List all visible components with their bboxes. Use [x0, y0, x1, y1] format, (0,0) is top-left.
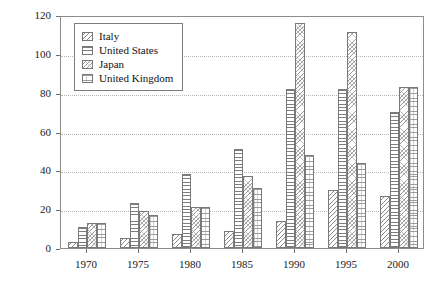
bar — [295, 23, 305, 248]
legend-item-italy: Italy — [82, 29, 173, 43]
x-tick-label: 1995 — [316, 258, 376, 270]
x-tick-label: 2000 — [368, 258, 428, 270]
legend-label-italy: Italy — [99, 30, 119, 43]
x-tick-mark — [294, 249, 295, 253]
chart-legend: Italy United States Japan United Kingdom — [74, 23, 183, 91]
y-tick-label: 80 — [0, 87, 51, 99]
x-tick-label: 1970 — [56, 258, 116, 270]
legend-label-united-states: United States — [99, 44, 158, 57]
x-tick-mark — [242, 249, 243, 253]
bar — [191, 207, 201, 248]
y-tick-label: 100 — [0, 48, 51, 60]
bar — [328, 190, 338, 248]
bar — [182, 174, 192, 248]
x-tick-label: 1990 — [264, 258, 324, 270]
bar — [149, 215, 159, 248]
bar — [224, 231, 234, 248]
y-tick-label: 40 — [0, 164, 51, 176]
legend-swatch-united-kingdom — [82, 74, 93, 83]
x-tick-label: 1975 — [108, 258, 168, 270]
bar — [305, 155, 315, 248]
x-tick-label: 1980 — [160, 258, 220, 270]
bar — [97, 223, 107, 248]
legend-item-japan: Japan — [82, 57, 173, 71]
legend-item-united-kingdom: United Kingdom — [82, 71, 173, 85]
y-tick-label: 60 — [0, 126, 51, 138]
bar — [120, 238, 130, 248]
bar — [276, 221, 286, 248]
bar — [380, 196, 390, 248]
x-tick-label: 1985 — [212, 258, 272, 270]
y-tick-mark — [56, 249, 60, 250]
legend-swatch-japan — [82, 60, 93, 69]
x-tick-mark — [138, 249, 139, 253]
bar — [130, 203, 140, 248]
bar — [243, 176, 253, 248]
legend-label-united-kingdom: United Kingdom — [99, 72, 173, 85]
bar — [139, 211, 149, 248]
gridline — [61, 95, 423, 96]
legend-swatch-united-states — [82, 46, 93, 55]
bar — [234, 149, 244, 248]
x-tick-mark — [190, 249, 191, 253]
legend-swatch-italy — [82, 32, 93, 41]
bar — [78, 227, 88, 248]
legend-item-united-states: United States — [82, 43, 173, 57]
plot-area: Italy United States Japan United Kingdom — [60, 16, 424, 249]
x-tick-mark — [86, 249, 87, 253]
bar — [253, 188, 263, 248]
y-tick-label: 120 — [0, 9, 51, 21]
bar — [87, 223, 97, 248]
bar — [390, 112, 400, 248]
x-tick-mark — [398, 249, 399, 253]
bar — [399, 87, 409, 248]
legend-label-japan: Japan — [99, 58, 124, 71]
bar — [286, 89, 296, 248]
bar — [68, 242, 78, 248]
x-tick-mark — [346, 249, 347, 253]
y-tick-label: 20 — [0, 203, 51, 215]
bar — [409, 87, 419, 248]
bar — [172, 234, 182, 248]
bar — [357, 163, 367, 248]
bar — [347, 32, 357, 248]
bar — [338, 89, 348, 248]
y-tick-label: 0 — [0, 242, 51, 254]
bar-chart-figure: 020406080100120 Italy United States Japa… — [0, 0, 443, 284]
gridline — [61, 134, 423, 135]
bar — [201, 207, 211, 248]
